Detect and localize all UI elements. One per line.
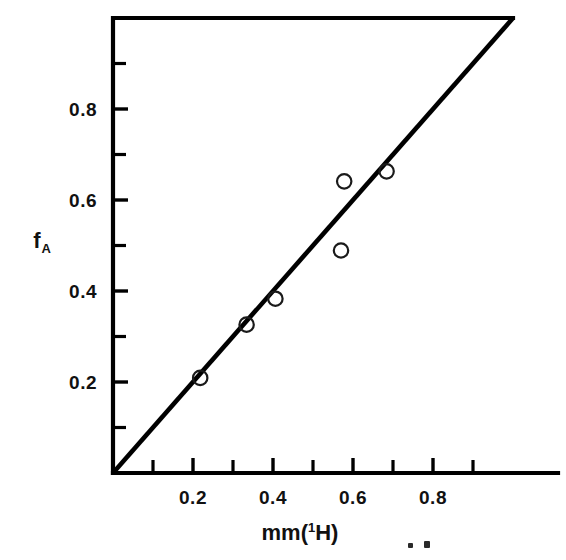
y-axis-tick-label: 0.8 <box>69 99 97 120</box>
data-point-marker <box>379 164 393 178</box>
x-axis-title-base-left: mm( <box>262 520 309 545</box>
data-point-marker <box>334 243 348 257</box>
x-axis-title: mm(1H) <box>262 520 339 545</box>
y-axis-title-subscript: A <box>41 241 51 256</box>
chart-figure: 0.20.40.60.80.20.40.60.8fAmm(1H) <box>0 0 566 560</box>
y-axis-tick-label: 0.6 <box>69 190 97 211</box>
y-axis-title: fA <box>33 228 51 256</box>
scan-speck <box>424 541 430 548</box>
x-axis-title-base-right: H) <box>315 520 338 545</box>
x-axis-tick-label: 0.4 <box>259 487 287 508</box>
x-axis-tick-label: 0.8 <box>419 487 447 508</box>
scan-speck <box>408 543 413 548</box>
data-point-marker <box>268 292 282 306</box>
data-point-marker <box>337 174 351 188</box>
x-axis-title-superscript: 1 <box>308 520 315 535</box>
fit-line-identity <box>113 18 513 473</box>
x-axis-tick-label: 0.6 <box>339 487 367 508</box>
y-axis-title-base: f <box>33 228 41 253</box>
x-axis-tick-label: 0.2 <box>179 487 207 508</box>
scatter-plot: 0.20.40.60.80.20.40.60.8fAmm(1H) <box>0 0 566 560</box>
y-axis-tick-label: 0.2 <box>69 372 97 393</box>
y-axis-tick-label: 0.4 <box>69 281 97 302</box>
